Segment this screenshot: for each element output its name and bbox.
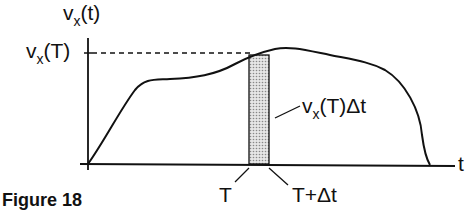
x-tick-T-dt: T+Δt <box>292 184 337 205</box>
T-leader <box>235 168 249 182</box>
area-leader <box>275 106 300 118</box>
y-axis-label: vx(t) <box>63 2 100 23</box>
Tdt-leader <box>269 168 288 185</box>
area-label: vx(T)Δt <box>302 95 366 116</box>
velocity-graph <box>0 0 470 216</box>
x-tick-T: T <box>219 184 232 205</box>
y-tick-label: vx(T) <box>26 40 70 61</box>
shaded-strip <box>249 55 269 164</box>
x-axis <box>80 164 455 166</box>
figure-caption: Figure 18 <box>2 190 82 211</box>
x-axis-label: t <box>458 153 464 174</box>
